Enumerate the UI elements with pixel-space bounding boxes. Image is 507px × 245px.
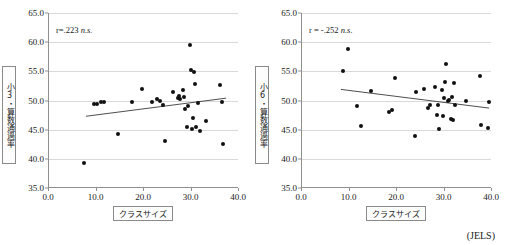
data-point	[130, 100, 134, 104]
x-tick-label: 20.0	[135, 188, 151, 202]
y-axis-title-label: 小3・算数通過率	[5, 83, 13, 148]
data-point	[393, 76, 397, 80]
gridline-horizontal	[48, 159, 238, 160]
data-point	[359, 124, 363, 128]
significance-label: n.s.	[341, 25, 353, 35]
data-point	[102, 100, 106, 104]
correlation-annotation: r = -.252 n.s.	[309, 25, 353, 35]
chart-panel-left: 小3・算数通過率35.040.045.050.055.060.065.00.01…	[0, 0, 253, 245]
x-tick-label: 20.0	[388, 188, 404, 202]
y-tick-label: 45.0	[28, 125, 48, 135]
plot-area: 35.040.045.050.055.060.065.00.010.020.03…	[301, 13, 491, 188]
data-point	[452, 81, 456, 85]
x-axis-title-label: クラスサイズ	[119, 210, 167, 219]
y-tick-label: 55.0	[281, 66, 301, 76]
gridline-horizontal	[48, 13, 238, 14]
x-tick-label: 0.0	[42, 188, 53, 202]
gridline-horizontal	[301, 159, 491, 160]
data-point	[346, 47, 350, 51]
data-point	[191, 116, 195, 120]
x-axis-title-label: クラスサイズ	[372, 210, 420, 219]
data-point	[436, 103, 440, 107]
data-point	[422, 87, 426, 91]
y-tick-label: 65.0	[28, 8, 48, 18]
y-axis-title-label: 小6・算数通過率	[258, 83, 266, 148]
x-axis-title-box: クラスサイズ	[366, 206, 426, 221]
source-note: (JELS)	[467, 230, 495, 241]
gridline-horizontal	[48, 71, 238, 72]
x-tick-label: 0.0	[295, 188, 306, 202]
data-point	[82, 161, 86, 165]
x-tick-label: 10.0	[341, 188, 357, 202]
data-point	[181, 88, 185, 92]
data-point	[479, 123, 483, 127]
gridline-horizontal	[48, 101, 238, 102]
y-tick-label: 45.0	[281, 125, 301, 135]
y-tick-label: 50.0	[281, 96, 301, 106]
data-point	[428, 103, 432, 107]
correlation-value: r=.223	[56, 25, 79, 35]
data-point	[451, 118, 455, 122]
data-point	[193, 82, 197, 86]
data-point	[196, 101, 200, 105]
data-point	[433, 85, 437, 89]
correlation-value: r = -.252	[309, 25, 339, 35]
gridline-horizontal	[301, 71, 491, 72]
x-tick-label: 30.0	[436, 188, 452, 202]
y-axis-title-box: 小3・算数通過率	[2, 66, 16, 164]
y-axis-line	[48, 13, 49, 188]
data-point	[221, 142, 225, 146]
x-tick-label: 40.0	[230, 188, 246, 202]
data-point	[437, 127, 441, 131]
gridline-horizontal	[48, 42, 238, 43]
y-axis-title-box: 小6・算数通過率	[255, 66, 269, 164]
significance-label: n.s.	[81, 25, 93, 35]
data-point	[341, 69, 345, 73]
x-tick-label: 40.0	[483, 188, 499, 202]
y-tick-label: 40.0	[28, 154, 48, 164]
y-tick-label: 60.0	[28, 37, 48, 47]
y-tick-label: 65.0	[281, 8, 301, 18]
data-point	[185, 125, 189, 129]
x-axis-title-box: クラスサイズ	[113, 206, 173, 221]
scatter-plot-figure: 小3・算数通過率35.040.045.050.055.060.065.00.01…	[0, 0, 507, 245]
y-tick-label: 55.0	[28, 66, 48, 76]
data-point	[441, 114, 445, 118]
data-point	[182, 95, 186, 99]
data-point	[487, 100, 491, 104]
data-point	[204, 119, 208, 123]
chart-panel-right: 小6・算数通過率35.040.045.050.055.060.065.00.01…	[253, 0, 506, 245]
data-point	[440, 88, 444, 92]
correlation-annotation: r=.223 n.s.	[56, 25, 92, 35]
gridline-horizontal	[301, 42, 491, 43]
y-tick-label: 50.0	[28, 96, 48, 106]
gridline-horizontal	[301, 130, 491, 131]
data-point	[486, 126, 490, 130]
gridline-horizontal	[301, 101, 491, 102]
plot-area: 35.040.045.050.055.060.065.00.010.020.03…	[48, 13, 238, 188]
data-point	[163, 139, 167, 143]
gridline-horizontal	[48, 130, 238, 131]
y-axis-line	[301, 13, 302, 188]
data-point	[150, 100, 154, 104]
x-tick-label: 30.0	[183, 188, 199, 202]
x-tick-label: 10.0	[88, 188, 104, 202]
gridline-horizontal	[301, 13, 491, 14]
y-tick-label: 40.0	[281, 154, 301, 164]
y-tick-label: 60.0	[281, 37, 301, 47]
data-point	[435, 113, 439, 117]
